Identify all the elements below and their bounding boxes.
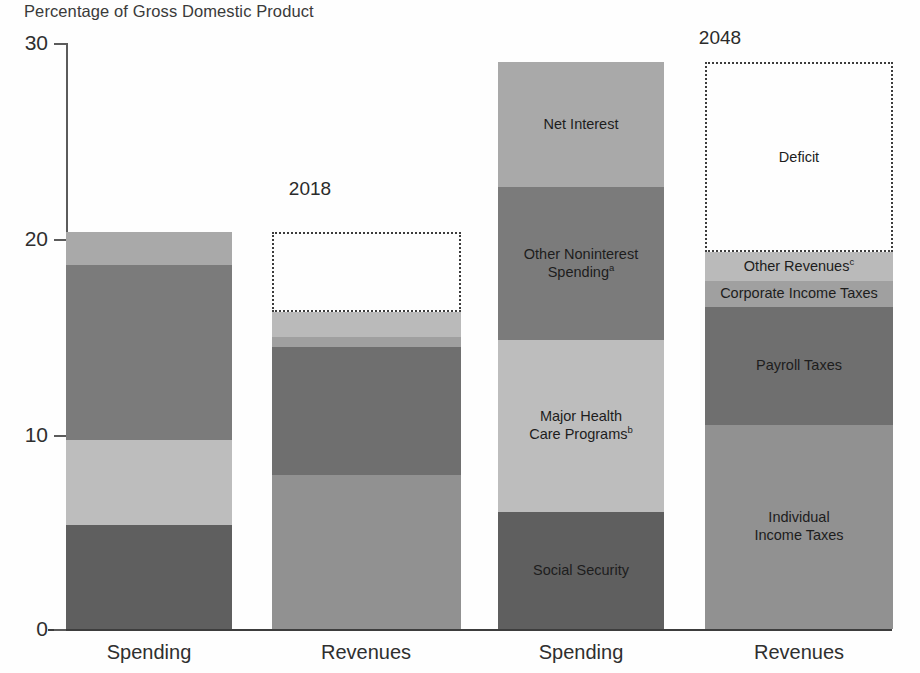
segment-other-noninterest-spending: Other Noninterest Spendinga [498,187,664,340]
y-tick-10 [54,435,66,437]
y-tick-30 [54,43,66,45]
segment-label-text: Other Revenues [744,258,850,274]
segment-individual-income-taxes: Individual Income Taxes [705,425,893,629]
segment-major-health-care-programs: Major Health Care Programsb [498,340,664,512]
y-tick-label-20: 20 [6,228,48,249]
segment-corporate-income-taxes [272,337,461,347]
segment-other-noninterest-spending [66,265,232,440]
y-tick-0 [54,629,66,631]
category-label-2018-spending: Spending [69,641,229,664]
segment-net-interest [66,232,232,265]
segment-net-interest: Net Interest [498,62,664,187]
segment-social-security [66,525,232,629]
segment-other-revenues [272,312,461,337]
x-axis-line [48,629,892,631]
category-label-2048-revenues: Revenues [709,641,889,664]
segment-label-text: Other Noninterest Spending [524,246,638,280]
segment-label: Payroll Taxes [752,357,846,375]
segment-major-health-care-programs [66,440,232,525]
chart-axis-title: Percentage of Gross Domestic Product [24,2,314,21]
segment-social-security: Social Security [498,512,664,629]
segment-label: Net Interest [540,116,623,134]
year-label-2048: 2048 [640,27,800,49]
segment-label: Major Health Care Programsb [525,408,637,443]
y-tick-label-10: 10 [6,424,48,445]
segment-other-revenues: Other Revenuesc [705,252,893,281]
footnote-marker-a: a [609,262,614,273]
segment-label: Individual Income Taxes [750,509,847,544]
y-tick-20 [54,239,66,241]
deficit-label: Deficit [779,149,819,165]
segment-payroll-taxes: Payroll Taxes [705,307,893,425]
segment-payroll-taxes [272,347,461,475]
segment-individual-income-taxes [272,475,461,629]
bar-2018-spending [66,232,232,629]
footnote-marker-c: c [849,256,854,267]
year-label-2018: 2018 [230,178,390,200]
bar-2048-spending: Net Interest Other Noninterest Spendinga… [498,62,664,629]
y-tick-label-30: 30 [6,32,48,53]
deficit-box-2018 [272,232,461,312]
y-tick-label-0: 0 [6,618,48,639]
footnote-marker-b: b [628,424,633,435]
bar-2048-revenues: Deficit Other Revenuesc Corporate Income… [705,62,893,629]
segment-label: Corporate Income Taxes [716,285,882,303]
bar-2018-revenues [272,232,461,629]
category-label-2048-spending: Spending [501,641,661,664]
budget-outlook-chart: Percentage of Gross Domestic Product 30 … [0,0,920,673]
segment-corporate-income-taxes: Corporate Income Taxes [705,281,893,307]
segment-label-text: Major Health Care Programs [529,408,627,442]
segment-label: Other Noninterest Spendinga [520,246,642,281]
segment-label: Other Revenuesc [740,258,858,276]
deficit-box-2048: Deficit [705,62,893,252]
category-label-2018-revenues: Revenues [276,641,456,664]
segment-label: Social Security [529,562,633,580]
